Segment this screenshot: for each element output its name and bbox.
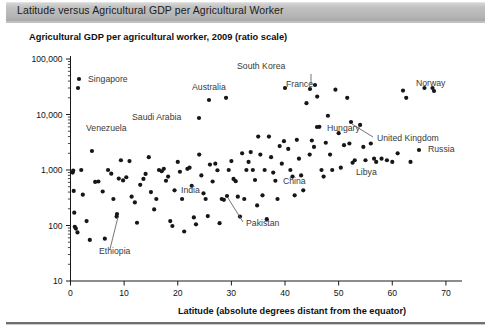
annotated-data-point (417, 148, 421, 152)
data-point (101, 189, 105, 193)
data-point (96, 179, 100, 183)
data-point (273, 179, 277, 183)
y-tick-label: 1,000 (41, 165, 63, 175)
data-point (301, 188, 305, 192)
data-point (249, 150, 253, 154)
data-point (401, 88, 405, 92)
x-tick-label: 60 (387, 288, 397, 298)
data-point (206, 214, 210, 218)
data-point (213, 162, 217, 166)
data-point (353, 158, 357, 162)
data-point (234, 179, 238, 183)
data-point (347, 141, 351, 145)
data-point (127, 159, 131, 163)
x-tick-label: 40 (280, 288, 290, 298)
data-point (312, 145, 316, 149)
annotated-data-point (115, 212, 119, 216)
data-point (286, 147, 290, 151)
data-point (81, 193, 85, 197)
x-tick-label: 20 (173, 288, 183, 298)
data-point (363, 158, 367, 162)
data-point (187, 166, 191, 170)
data-point (154, 197, 158, 201)
data-point (255, 203, 259, 207)
data-point (280, 162, 284, 166)
data-point (215, 168, 219, 172)
data-point (194, 222, 198, 226)
x-axis-tick-labels: 010203040506070 (68, 288, 451, 298)
leader-line (110, 217, 118, 249)
data-point (263, 168, 267, 172)
annotation-label: Venezuela (86, 123, 127, 133)
data-point (197, 152, 201, 156)
data-point (143, 172, 147, 176)
data-point (106, 168, 110, 172)
data-point (258, 152, 262, 156)
data-point (385, 158, 389, 162)
annotated-data-point (432, 89, 436, 93)
data-point (162, 167, 166, 171)
annotation-label: South Korea (237, 61, 285, 71)
data-point (240, 151, 244, 155)
data-point (390, 160, 394, 164)
data-point (379, 157, 383, 161)
data-point (408, 160, 412, 164)
data-point (117, 177, 121, 181)
data-point (75, 230, 79, 234)
data-point (90, 149, 94, 153)
x-tick-label: 0 (68, 288, 73, 298)
data-point (166, 175, 170, 179)
data-point (201, 191, 205, 195)
data-point (138, 183, 142, 187)
data-point (135, 221, 139, 225)
x-tick-label: 10 (119, 288, 129, 298)
data-point (293, 193, 297, 197)
data-point (109, 172, 113, 176)
data-point (278, 144, 282, 148)
data-point (282, 139, 286, 143)
x-tick-label: 70 (441, 288, 451, 298)
y-tick-label: 100,000 (31, 54, 62, 64)
data-point (88, 238, 92, 242)
data-point (76, 86, 80, 90)
scatter-plot: 101001,00010,000100,000 010203040506070 … (0, 0, 485, 335)
data-point (310, 138, 314, 142)
data-point (79, 168, 83, 172)
data-point (288, 168, 292, 172)
data-point (224, 96, 228, 100)
annotated-data-point (225, 194, 229, 198)
data-point (180, 197, 184, 201)
data-point (133, 200, 137, 204)
data-point (152, 207, 156, 211)
data-point (322, 175, 326, 179)
data-point (149, 190, 153, 194)
data-point (124, 175, 128, 179)
data-point (271, 170, 275, 174)
leader-line (228, 198, 243, 222)
annotation-label: Singapore (88, 74, 128, 84)
data-point (103, 237, 107, 241)
annotated-data-point (197, 116, 201, 120)
data-point (324, 141, 328, 145)
annotation-label: France (286, 79, 313, 89)
data-point (227, 168, 231, 172)
data-point (260, 193, 264, 197)
data-point (404, 96, 408, 100)
data-point (164, 179, 168, 183)
data-point (333, 88, 337, 92)
annotated-data-point (207, 98, 211, 102)
data-point (130, 195, 134, 199)
x-axis-title: Latitude (absolute degrees distant from … (178, 306, 406, 316)
annotated-data-point (315, 125, 319, 129)
annotation-label: Norway (416, 78, 446, 88)
data-point (253, 178, 257, 182)
data-point (192, 215, 196, 219)
data-point (72, 211, 76, 215)
data-point (236, 195, 240, 199)
data-point (361, 145, 365, 149)
data-point (168, 219, 172, 223)
data-point (297, 157, 301, 161)
data-point (295, 138, 299, 142)
data-point (199, 173, 203, 177)
data-point (275, 197, 279, 201)
